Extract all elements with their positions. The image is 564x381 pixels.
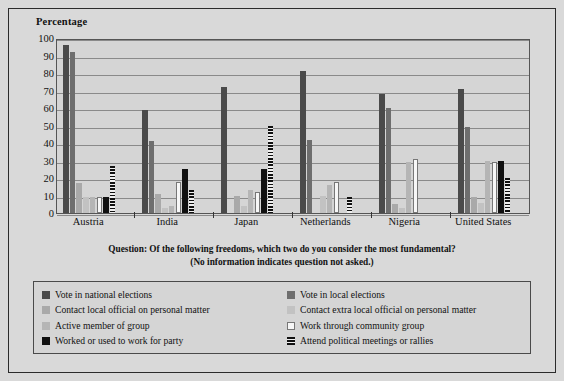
- legend-item[interactable]: Active member of group: [42, 318, 292, 334]
- legend-swatch-icon: [42, 291, 50, 299]
- x-tick-japan: Japan: [234, 216, 258, 227]
- chart-figure: Percentage 0102030405060708090100 Austri…: [0, 0, 564, 381]
- y-tick-90: 90: [44, 51, 55, 62]
- legend-swatch-icon: [287, 306, 295, 314]
- bar: [307, 140, 313, 214]
- x-tick-nigeria: Nigeria: [389, 216, 421, 227]
- bar: [465, 127, 471, 213]
- bar: [169, 206, 175, 213]
- bar: [110, 166, 116, 213]
- y-tick-80: 80: [44, 69, 55, 80]
- legend-label: Vote in national elections: [55, 290, 152, 300]
- bar: [103, 197, 109, 213]
- caption-line-2: (No information indicates question not a…: [20, 256, 544, 269]
- y-tick-100: 100: [38, 34, 54, 45]
- bar: [189, 190, 195, 213]
- y-tick-0: 0: [49, 209, 54, 220]
- bar: [176, 182, 182, 214]
- legend-label: Work through community group: [300, 321, 424, 331]
- bar-groups: [57, 40, 529, 213]
- x-tick-austria: Austria: [73, 216, 104, 227]
- bar: [221, 87, 227, 213]
- bar: [149, 141, 155, 213]
- bar: [63, 45, 69, 213]
- x-tick-united-states: United States: [455, 216, 511, 227]
- legend-item[interactable]: Contact extra local official on personal…: [287, 303, 532, 319]
- legend-label: Worked or used to work for party: [55, 336, 183, 346]
- legend-label: Active member of group: [55, 321, 150, 331]
- legend-item[interactable]: Contact local official on personal matte…: [42, 303, 292, 319]
- bar: [498, 161, 504, 214]
- bar: [320, 196, 326, 214]
- bar: [386, 108, 392, 213]
- bar: [182, 169, 188, 213]
- legend-swatch-icon: [287, 291, 295, 299]
- y-tick-60: 60: [44, 104, 55, 115]
- bar: [392, 204, 398, 213]
- y-tick-40: 40: [44, 139, 55, 150]
- bar: [478, 203, 484, 214]
- legend-swatch-icon: [42, 306, 50, 314]
- y-tick-10: 10: [44, 191, 55, 202]
- bar: [505, 178, 511, 213]
- bar: [261, 169, 267, 213]
- bar: [347, 197, 353, 213]
- bar: [97, 197, 103, 213]
- plot-area: [56, 39, 530, 214]
- bar: [399, 208, 405, 213]
- legend-item[interactable]: Worked or used to work for party: [42, 334, 292, 350]
- bar: [300, 71, 306, 213]
- legend-column-right: Vote in local electionsContact extra loc…: [287, 287, 532, 349]
- bar: [327, 185, 333, 213]
- legend-label: Attend political meetings or rallies: [300, 336, 433, 346]
- chart-legend: Vote in national electionsContact local …: [33, 281, 531, 354]
- bar: [142, 110, 148, 213]
- x-tick-netherlands: Netherlands: [300, 216, 351, 227]
- y-tick-20: 20: [44, 174, 55, 185]
- bar: [379, 94, 385, 213]
- bar: [255, 192, 261, 213]
- bar: [162, 208, 168, 213]
- legend-item[interactable]: Vote in national elections: [42, 287, 292, 303]
- x-tick-india: India: [156, 216, 178, 227]
- bar: [234, 196, 240, 214]
- bar: [155, 194, 161, 213]
- bar: [241, 206, 247, 213]
- y-axis-tick-labels: 0102030405060708090100: [24, 39, 54, 214]
- chart-caption: Question: Of the following freedoms, whi…: [20, 243, 544, 270]
- y-tick-50: 50: [44, 121, 55, 132]
- legend-column-left: Vote in national electionsContact local …: [42, 287, 292, 349]
- bar: [70, 52, 76, 213]
- bar: [268, 126, 274, 214]
- legend-label: Contact extra local official on personal…: [300, 305, 476, 315]
- legend-label: Contact local official on personal matte…: [55, 305, 210, 315]
- bar: [334, 182, 340, 214]
- bar: [406, 162, 412, 213]
- bar: [485, 161, 491, 214]
- legend-swatch-icon: [287, 322, 295, 330]
- x-axis-tick-labels: AustriaIndiaJapanNetherlandsNigeriaUnite…: [56, 216, 530, 234]
- y-tick-30: 30: [44, 156, 55, 167]
- bar: [458, 89, 464, 213]
- bar: [83, 197, 89, 213]
- legend-item[interactable]: Vote in local elections: [287, 287, 532, 303]
- y-tick-70: 70: [44, 86, 55, 97]
- bar: [76, 183, 82, 213]
- bar: [413, 159, 419, 213]
- legend-label: Vote in local elections: [300, 290, 385, 300]
- bar: [248, 190, 254, 213]
- y-axis-title: Percentage: [36, 16, 87, 27]
- legend-swatch-icon: [42, 322, 50, 330]
- legend-swatch-icon: [42, 337, 50, 345]
- caption-line-1: Question: Of the following freedoms, whi…: [20, 243, 544, 256]
- bar: [471, 197, 477, 213]
- bar: [90, 197, 96, 213]
- legend-item[interactable]: Work through community group: [287, 318, 532, 334]
- bar: [492, 162, 498, 213]
- legend-swatch-icon: [287, 337, 295, 345]
- legend-item[interactable]: Attend political meetings or rallies: [287, 334, 532, 350]
